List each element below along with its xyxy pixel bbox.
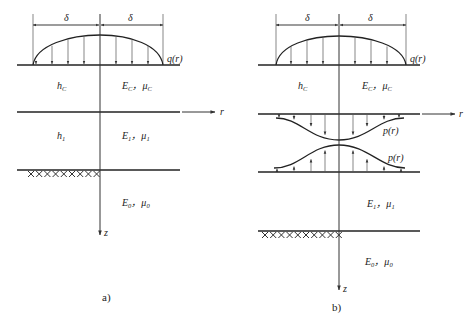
load-curve-q [33, 35, 163, 65]
layer-c-props: EC，μC [361, 80, 392, 92]
layer-c-thickness: hC [57, 80, 67, 92]
panel-b: δ δ q(r) p(r) p(r) z r hC EC，μC E1，μ1 E0… [258, 12, 463, 314]
contact-upper-label: p(r) [382, 125, 399, 137]
load-label: q(r) [410, 53, 426, 65]
delta-left-label: δ [64, 12, 69, 23]
r-axis-label: r [459, 108, 463, 119]
r-axis-label: r [220, 106, 224, 117]
delta-right-label: δ [128, 12, 133, 23]
z-axis-label: z [103, 227, 108, 238]
load-label: q(r) [167, 53, 183, 65]
panel-a: δ δ q(r) z r hC EC，μC h1 E1，μ1 E0，μ0 a) [17, 12, 224, 304]
delta-left-label: δ [305, 12, 310, 23]
layer-1-props: E1，μ1 [121, 130, 150, 142]
layer-0-props: E0，μ0 [121, 197, 150, 209]
delta-right-label: δ [368, 12, 373, 23]
layer-1-props: E1，μ1 [366, 198, 395, 210]
layer-c-thickness: hC [298, 80, 308, 92]
layered-pavement-diagram: δ δ q(r) z r hC EC，μC h1 E1，μ1 E0，μ0 a) … [0, 0, 476, 325]
fixed-boundary-marks [262, 232, 342, 238]
contact-lower-label: p(r) [387, 152, 404, 164]
layer-c-props: EC，μC [121, 80, 152, 92]
layer-0-props: E0，μ0 [364, 256, 393, 268]
fixed-boundary-marks [28, 171, 100, 177]
caption-a: a) [102, 291, 111, 304]
load-arrows [36, 37, 148, 64]
layer-1-thickness: h1 [57, 130, 65, 142]
z-axis-label: z [342, 283, 347, 294]
caption-b: b) [332, 301, 342, 314]
load-curve-q [276, 36, 406, 65]
